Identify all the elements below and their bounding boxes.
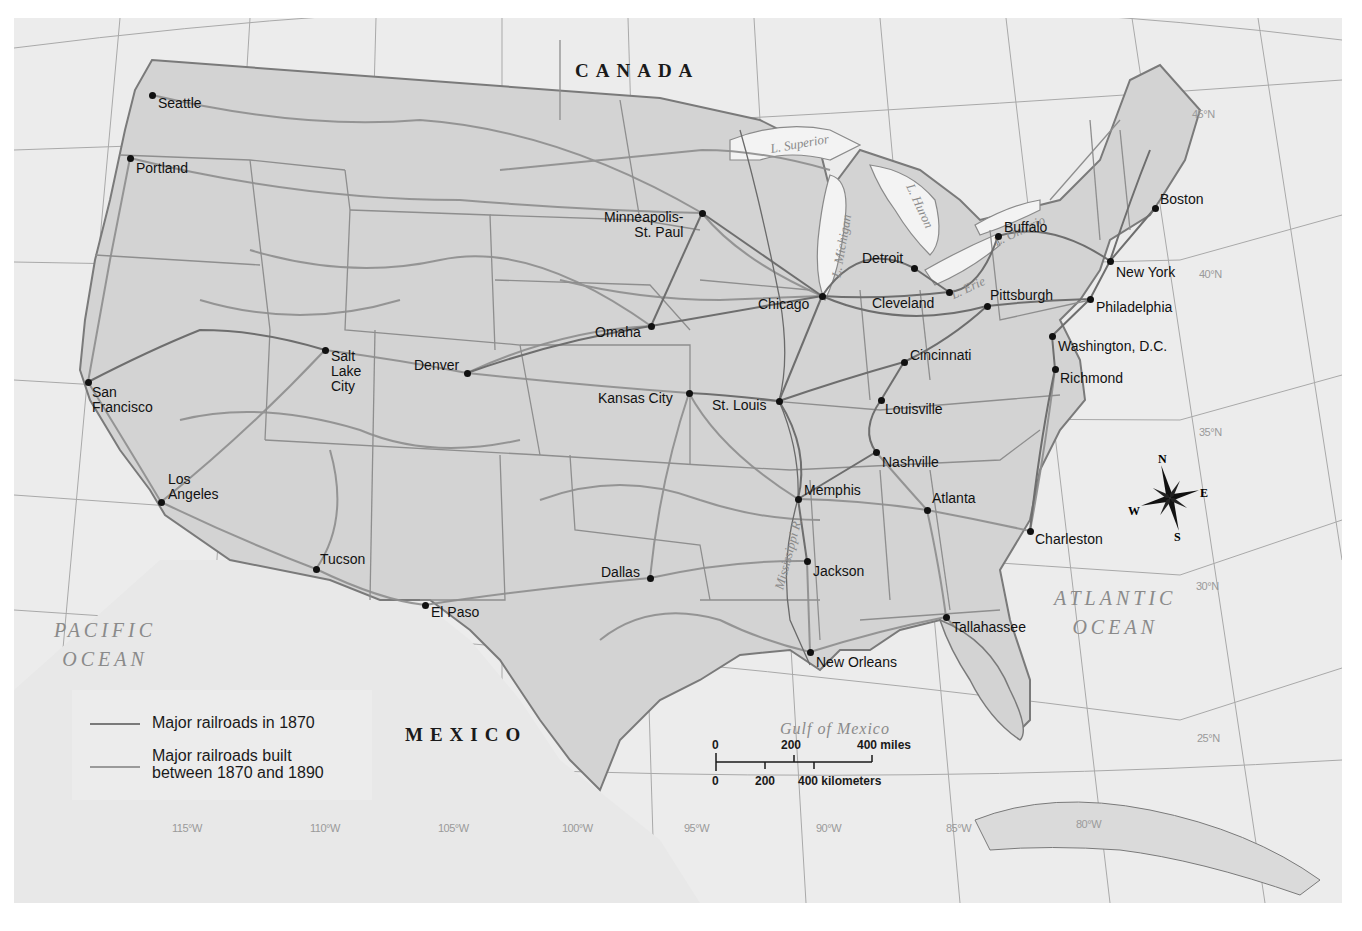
city-label-cincinnati: Cincinnati xyxy=(910,348,971,363)
city-dot-tucson xyxy=(313,566,320,573)
city-label-atlanta: Atlanta xyxy=(932,491,976,506)
city-label-washington-dc: Washington, D.C. xyxy=(1058,339,1167,354)
city-label-philadelphia: Philadelphia xyxy=(1096,300,1172,315)
city-dot-minneapolis xyxy=(699,210,706,217)
city-label-jackson: Jackson xyxy=(813,564,864,579)
city-label-memphis: Memphis xyxy=(804,483,861,498)
city-dot-chicago xyxy=(819,293,826,300)
city-dot-memphis xyxy=(795,496,802,503)
city-label-denver: Denver xyxy=(414,358,459,373)
city-label-boston: Boston xyxy=(1160,192,1204,207)
legend-label-1890-line1: Major railroads built xyxy=(152,747,324,764)
lon-label-115: 115°W xyxy=(172,822,202,834)
city-label-salt-lake-city: SaltLakeCity xyxy=(331,349,361,394)
lat-label-35: 35°N xyxy=(1199,426,1222,438)
lon-label-110: 110°W xyxy=(310,822,340,834)
compass-south: S xyxy=(1174,530,1181,545)
city-label-san-francisco: SanFrancisco xyxy=(92,385,153,415)
city-dot-pittsburgh xyxy=(984,303,991,310)
city-label-minneapolis: Minneapolis-St. Paul xyxy=(604,210,683,240)
city-dot-richmond xyxy=(1052,366,1059,373)
city-dot-new-orleans xyxy=(807,649,814,656)
city-dot-cleveland xyxy=(946,289,953,296)
city-label-pittsburgh: Pittsburgh xyxy=(990,288,1053,303)
city-dot-nashville xyxy=(873,449,880,456)
country-label-canada: CANADA xyxy=(575,60,699,82)
lon-label-105: 105°W xyxy=(438,822,469,834)
city-dot-dallas xyxy=(647,575,654,582)
city-label-charleston: Charleston xyxy=(1035,532,1103,547)
lon-label-80: 80°W xyxy=(1076,818,1101,830)
lon-label-90: 90°W xyxy=(816,822,841,834)
city-label-omaha: Omaha xyxy=(595,325,641,340)
city-label-kansas-city: Kansas City xyxy=(598,391,673,406)
city-label-buffalo: Buffalo xyxy=(1004,220,1047,235)
city-dot-denver xyxy=(464,370,471,377)
legend-swatch-1890 xyxy=(90,766,140,768)
city-label-seattle: Seattle xyxy=(158,96,202,111)
water-label-pacific: PACIFIC OCEAN xyxy=(54,616,156,674)
city-dot-philadelphia xyxy=(1087,296,1094,303)
city-label-louisville: Louisville xyxy=(885,402,943,417)
city-dot-new-york xyxy=(1107,258,1114,265)
compass-rose: N S E W xyxy=(1128,452,1208,542)
city-label-tucson: Tucson xyxy=(320,552,365,567)
city-label-richmond: Richmond xyxy=(1060,371,1123,386)
city-dot-cincinnati xyxy=(901,359,908,366)
legend-label-1890-line2: between 1870 and 1890 xyxy=(152,764,324,781)
city-dot-seattle xyxy=(149,92,156,99)
lon-label-85: 85°W xyxy=(946,822,971,834)
lat-label-30: 30°N xyxy=(1196,580,1219,592)
city-dot-buffalo xyxy=(995,233,1002,240)
city-label-dallas: Dallas xyxy=(601,565,640,580)
scale-bar: 0 200 400 miles 0 200 400 kilometers xyxy=(710,735,940,795)
city-label-el-paso: El Paso xyxy=(431,605,479,620)
city-dot-san-francisco xyxy=(85,379,92,386)
city-dot-tallahassee xyxy=(943,614,950,621)
map-frame: 45°N 40°N 35°N 30°N 25°N 115°W 110°W 105… xyxy=(14,18,1342,903)
legend-swatch-1870 xyxy=(90,723,140,725)
city-dot-detroit xyxy=(911,265,918,272)
scale-km-200: 200 xyxy=(755,774,775,788)
city-label-chicago: Chicago xyxy=(758,297,809,312)
cuba-land xyxy=(975,802,1320,895)
lat-label-25: 25°N xyxy=(1197,732,1220,744)
city-dot-washington-dc xyxy=(1049,333,1056,340)
city-dot-atlanta xyxy=(924,507,931,514)
scale-km-0: 0 xyxy=(712,774,719,788)
city-label-cleveland: Cleveland xyxy=(872,296,934,311)
city-dot-boston xyxy=(1152,205,1159,212)
lon-label-100: 100°W xyxy=(562,822,593,834)
city-label-st-louis: St. Louis xyxy=(712,398,766,413)
compass-west: W xyxy=(1128,504,1140,519)
legend: Major railroads in 1870 Major railroads … xyxy=(72,690,372,800)
lon-label-95: 95°W xyxy=(684,822,709,834)
city-dot-salt-lake-city xyxy=(322,347,329,354)
city-label-portland: Portland xyxy=(136,161,188,176)
city-dot-omaha xyxy=(648,323,655,330)
legend-item-1870: Major railroads in 1870 xyxy=(90,714,315,731)
water-label-atlantic: ATLANTIC OCEAN xyxy=(1054,584,1176,642)
city-dot-st-louis xyxy=(776,398,783,405)
city-dot-jackson xyxy=(804,558,811,565)
country-label-mexico: MEXICO xyxy=(405,724,527,746)
city-label-detroit: Detroit xyxy=(862,251,903,266)
city-dot-kansas-city xyxy=(686,390,693,397)
city-label-los-angeles: LosAngeles xyxy=(168,472,219,502)
city-dot-los-angeles xyxy=(158,499,165,506)
compass-east: E xyxy=(1200,486,1208,501)
city-dot-louisville xyxy=(878,397,885,404)
lat-label-45: 45°N xyxy=(1192,108,1215,120)
compass-icon xyxy=(1128,452,1208,542)
city-label-tallahassee: Tallahassee xyxy=(952,620,1026,635)
city-dot-charleston xyxy=(1027,528,1034,535)
city-label-new-york: New York xyxy=(1116,265,1175,280)
city-label-nashville: Nashville xyxy=(882,455,939,470)
compass-north: N xyxy=(1158,452,1167,467)
lat-label-40: 40°N xyxy=(1199,268,1222,280)
scale-km-400: 400 kilometers xyxy=(798,774,881,788)
city-dot-portland xyxy=(127,155,134,162)
city-label-new-orleans: New Orleans xyxy=(816,655,897,670)
legend-item-1890: Major railroads built between 1870 and 1… xyxy=(90,747,324,781)
city-dot-el-paso xyxy=(422,602,429,609)
